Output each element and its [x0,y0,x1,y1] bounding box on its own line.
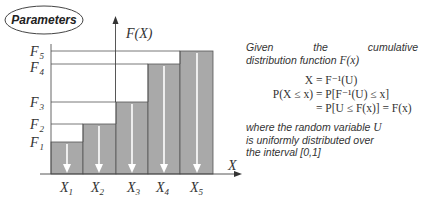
equation-2: P(X ≤ x) = P[F⁻¹(U) ≤ x] [246,87,418,101]
explanation-panel: Given the cumulative distribution functi… [246,41,418,158]
equation-3: = P[U ≤ F(x)] = F(x) [246,101,418,115]
column-label-x2: X2 [90,180,105,197]
parameters-badge: Parameters [5,6,83,34]
parameters-label: Parameters [11,13,77,27]
level-label-f3: F3 [29,95,45,112]
equations: X = F⁻¹(U) P(X ≤ x) = P[F⁻¹(U) ≤ x] = P[… [246,73,418,115]
level-label-f2: F2 [29,117,45,134]
outro-line-2: is uniformly distributed over [246,134,418,146]
y-axis-arrowhead-icon [113,16,119,24]
column-label-x3: X3 [126,180,141,197]
outro-line-1: where the random variable U [246,120,418,134]
outro-line-3: the interval [0,1] [246,146,418,158]
y-axis: F(X) [113,16,153,102]
level-label-f4: F4 [29,60,45,77]
intro-line-1: Given the cumulative [246,41,418,53]
column-label-x5: X5 [189,180,204,197]
y-axis-label: F(X) [125,26,153,42]
intro-line-2: distribution function F(x) [246,53,418,67]
column-labels: X1 X2 X3 X4 X5 [59,180,204,197]
equation-1: X = F⁻¹(U) [246,73,418,87]
column-label-x4: X4 [155,180,170,197]
level-labels: F1 F2 F3 F4 F5 [29,44,45,152]
column-label-x1: X1 [59,180,73,197]
level-label-f5: F5 [29,44,45,61]
x-axis-label: X [227,158,237,173]
level-label-f1: F1 [29,135,44,152]
